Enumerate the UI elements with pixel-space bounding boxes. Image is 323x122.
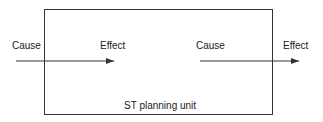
right-effect-label: Effect — [283, 40, 308, 52]
left-cause-label: Cause — [12, 40, 41, 52]
container-label: ST planning unit — [124, 100, 196, 112]
left-effect-label: Effect — [100, 40, 125, 52]
right-cause-label: Cause — [196, 40, 225, 52]
